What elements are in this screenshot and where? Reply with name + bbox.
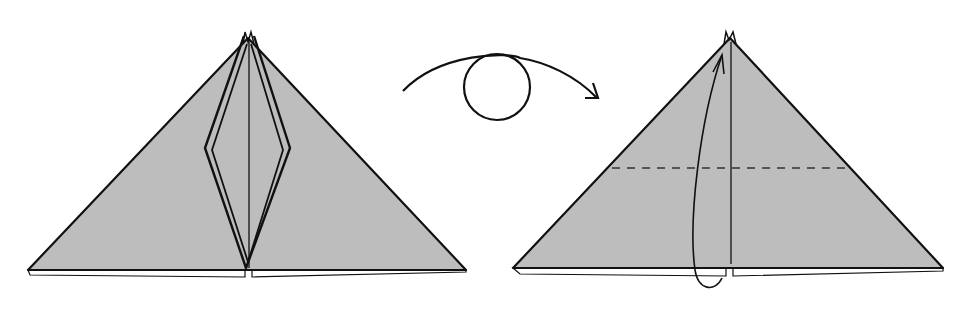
- right-bottom-strip-right: [733, 268, 943, 276]
- turn-loop-circle: [464, 54, 530, 120]
- left-model: [28, 32, 466, 277]
- left-triangle: [28, 38, 466, 270]
- right-model: [513, 32, 943, 287]
- turn-arrow-arc: [403, 55, 597, 98]
- origami-diagram: [0, 0, 978, 310]
- right-triangle: [513, 38, 943, 268]
- turn-over-symbol: [403, 54, 598, 120]
- right-bottom-strip-left: [513, 268, 726, 276]
